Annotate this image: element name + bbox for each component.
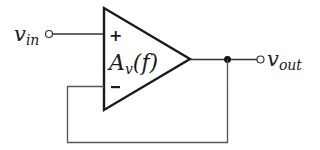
gain-label: Av(f): [107, 50, 158, 77]
inverting-input-symbol: [111, 86, 120, 88]
input-label: vin: [14, 22, 39, 48]
input-terminal: [46, 31, 53, 38]
noninverting-input-symbol: +: [109, 26, 122, 45]
output-label: vout: [267, 47, 302, 73]
voltage-follower-diagram: vin + Av(f) vout: [0, 0, 320, 150]
output-terminal: [257, 56, 264, 63]
